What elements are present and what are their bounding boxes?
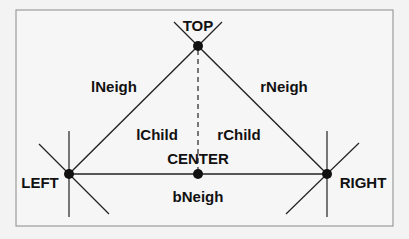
node-right (322, 169, 332, 179)
label-left-child: lChild (136, 126, 178, 143)
label-center: CENTER (167, 150, 229, 167)
label-right: RIGHT (340, 174, 387, 191)
triangle-neighbor-diagram: TOP LEFT RIGHT CENTER lNeigh rNeigh lChi… (0, 0, 409, 239)
label-bottom-neighbor: bNeigh (173, 188, 224, 205)
label-right-child: rChild (217, 126, 260, 143)
node-center (193, 169, 203, 179)
node-left (64, 169, 74, 179)
label-top: TOP (183, 17, 214, 34)
label-left: LEFT (21, 174, 59, 191)
label-right-neighbor: rNeigh (260, 78, 308, 95)
label-left-neighbor: lNeigh (91, 78, 137, 95)
node-top (193, 41, 203, 51)
